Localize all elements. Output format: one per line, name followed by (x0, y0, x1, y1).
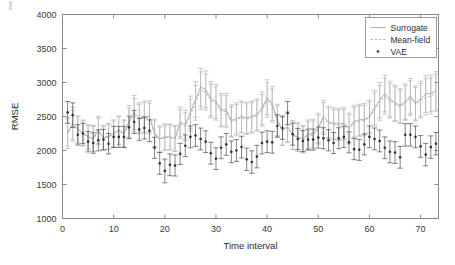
y-tick-label-2000: 2000 (36, 146, 56, 156)
vae-marker (322, 137, 325, 140)
vae-marker (327, 139, 330, 142)
vae-marker (82, 132, 85, 135)
x-axis-title: Time interval (223, 240, 277, 251)
vae-marker (266, 140, 269, 143)
vae-marker (291, 133, 294, 136)
vae-marker (235, 149, 238, 152)
y-tick-label-3500: 3500 (36, 44, 56, 54)
vae-marker (373, 138, 376, 141)
vae-marker (240, 146, 243, 149)
vae-marker (256, 155, 259, 158)
vae-marker (153, 146, 156, 149)
x-tick-label-20: 20 (160, 224, 170, 234)
vae-marker (158, 162, 161, 165)
vae-marker (230, 151, 233, 154)
vae-marker (189, 136, 192, 139)
vae-marker (414, 136, 417, 139)
vae-marker (394, 151, 397, 154)
x-tick-label-50: 50 (313, 224, 323, 234)
vae-marker (102, 138, 105, 141)
y-tick-label-3000: 3000 (36, 78, 56, 88)
vae-marker (107, 142, 110, 145)
x-tick-label-70: 70 (416, 224, 426, 234)
vae-marker (430, 146, 433, 149)
vae-marker (169, 163, 172, 166)
vae-marker (194, 134, 197, 137)
vae-marker (220, 146, 223, 149)
vae-marker (424, 153, 427, 156)
vae-marker (184, 144, 187, 147)
y-tick-label-1000: 1000 (36, 214, 56, 224)
vae-marker (77, 134, 80, 137)
series-mean-field (65, 72, 439, 153)
y-tick-label-2500: 2500 (36, 112, 56, 122)
vae-marker (92, 142, 95, 145)
vae-marker (404, 134, 407, 137)
vae-marker (286, 112, 289, 115)
vae-marker (337, 137, 340, 140)
vae-marker (332, 142, 335, 145)
x-tick-label-40: 40 (262, 224, 272, 234)
vae-marker (348, 141, 351, 144)
vae-marker (383, 146, 386, 149)
vae-marker (358, 149, 361, 152)
vae-marker (302, 140, 305, 143)
vae-marker (97, 139, 100, 142)
vae-marker (179, 153, 182, 156)
vae-marker (138, 128, 141, 131)
vae-marker (87, 140, 90, 143)
vae-marker (148, 129, 151, 132)
vae-marker (199, 138, 202, 141)
vae-marker (399, 156, 402, 159)
x-tick-label-60: 60 (364, 224, 374, 234)
vae-marker (204, 140, 207, 143)
errorbar (387, 84, 392, 119)
errorbar (178, 109, 183, 138)
y-tick-label-1500: 1500 (36, 180, 56, 190)
legend-label-vae: VAE (391, 47, 408, 57)
vae-marker (419, 145, 422, 148)
vae-marker (271, 141, 274, 144)
vae-marker (363, 143, 366, 146)
data-layer (65, 68, 439, 183)
vae-marker (164, 170, 167, 173)
vae-marker (210, 152, 213, 155)
vae-marker (317, 136, 320, 139)
errorbar (418, 84, 423, 119)
vae-marker (281, 127, 284, 130)
vae-marker (215, 157, 218, 160)
vae-marker (123, 136, 126, 139)
vae-marker (435, 142, 438, 145)
vae-marker (389, 151, 392, 154)
vae-marker (143, 127, 146, 130)
vae-marker (353, 148, 356, 151)
vae-marker (71, 114, 74, 117)
legend-label-surrogate: Surrogate (391, 23, 429, 33)
errorbar (270, 89, 275, 122)
vae-marker (250, 161, 253, 164)
vae-marker (117, 136, 120, 139)
y-tick-label-4000: 4000 (36, 10, 56, 20)
x-tick-label-0: 0 (60, 224, 65, 234)
vae-marker (312, 138, 315, 141)
vae-marker (378, 140, 381, 143)
x-tick-label-10: 10 (109, 224, 119, 234)
figure-container: 0102030405060701000150020002500300035004… (0, 0, 455, 265)
x-tick-label-30: 30 (211, 224, 221, 234)
legend-swatch-vae (377, 50, 380, 53)
vae-marker (276, 125, 279, 128)
y-axis-title: RMSE (9, 103, 20, 130)
vae-marker (225, 143, 228, 146)
vae-marker (343, 136, 346, 139)
vae-marker (128, 126, 131, 129)
vae-marker (245, 158, 248, 161)
errorbar (208, 84, 213, 117)
legend[interactable]: SurrogateMean-fieldVAE (366, 18, 437, 58)
vae-marker (112, 136, 115, 139)
vae-marker (297, 138, 300, 141)
vae-marker (409, 134, 412, 137)
vae-marker (261, 142, 264, 145)
vae-marker (133, 121, 136, 124)
vae-marker (368, 136, 371, 139)
vae-marker (174, 164, 177, 167)
